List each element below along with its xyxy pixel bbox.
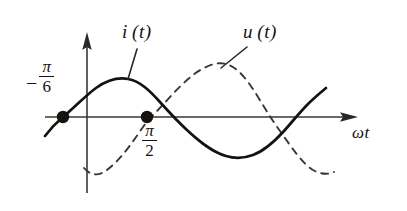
- curve-label-i-of-t: i (t): [122, 22, 152, 41]
- curve-u-of-t: [84, 63, 334, 174]
- waveform-figure: i (t) u (t) ωt − π 6 π 2: [0, 0, 407, 211]
- fraction-denominator-two: 2: [143, 141, 156, 159]
- fraction-numerator-pi: π: [41, 58, 54, 76]
- fraction-stack: π 6: [39, 58, 54, 95]
- x-axis-label-omega-t: ωt: [352, 124, 370, 141]
- leader-line-i-of-t: [128, 49, 137, 79]
- tick-label-pi-over-2: π 2: [142, 122, 157, 159]
- minus-sign: −: [26, 72, 37, 95]
- fraction-stack: π 2: [142, 122, 157, 159]
- fraction-denominator-six: 6: [41, 77, 54, 95]
- marker-dot-minus-pi-over-6: [57, 111, 69, 123]
- waveform-svg: [0, 0, 407, 211]
- fraction-numerator-pi: π: [143, 122, 156, 140]
- leader-line-u-of-t: [221, 47, 247, 68]
- curve-label-u-of-t: u (t): [243, 22, 277, 41]
- tick-label-minus-pi-over-6: − π 6: [26, 58, 54, 95]
